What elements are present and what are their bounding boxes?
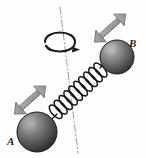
- physics-diagram-figure: A B: [0, 0, 146, 158]
- sphere-a: [17, 112, 57, 152]
- sphere-a-label: A: [7, 136, 14, 147]
- diagram-canvas: [0, 0, 146, 158]
- sphere-b-label: B: [129, 38, 136, 49]
